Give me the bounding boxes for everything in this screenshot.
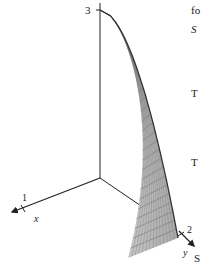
- margin-text-5: S: [194, 252, 200, 264]
- margin-text-3: T: [191, 87, 198, 99]
- y-axis-label: y: [182, 247, 188, 258]
- surface-fill: [100, 10, 178, 258]
- x-tick-label: 1: [22, 192, 27, 203]
- surface-plot: 3 1 x 2 y fo S T T S: [0, 0, 203, 267]
- margin-text-4: T: [191, 156, 198, 168]
- surface: [100, 10, 178, 258]
- margin-text-2: S: [191, 23, 197, 35]
- y-tick-label: 2: [187, 224, 192, 235]
- x-axis-label: x: [33, 213, 39, 224]
- z-tick-label: 3: [85, 4, 91, 16]
- margin-text-1: fo: [191, 4, 201, 16]
